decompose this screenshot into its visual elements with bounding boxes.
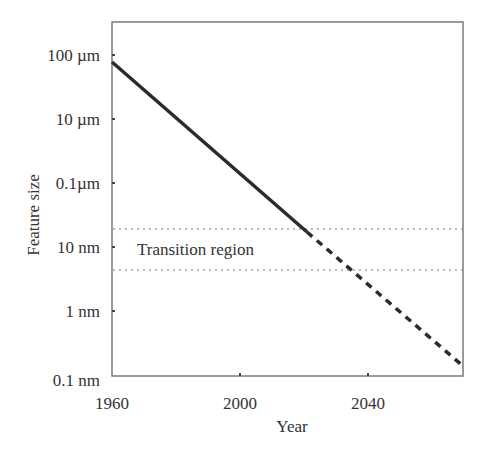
x-tick-label: 2040 [351, 394, 385, 413]
transition-region-label: Transition region [137, 240, 254, 259]
y-tick-label: 1 nm [66, 302, 100, 321]
plot-frame [112, 22, 463, 376]
y-tick-label: 100 µm [47, 46, 100, 65]
x-tick-labels: 1960 2000 2040 [95, 394, 385, 413]
historical-trend-line [112, 62, 307, 232]
projected-trend-line [307, 232, 463, 366]
y-axis-title: Feature size [24, 174, 43, 256]
y-tick-label: 0.1µm [56, 174, 100, 193]
y-tick-label: 0.1 nm [53, 371, 100, 390]
x-axis-title: Year [276, 417, 308, 436]
y-tick-label: 10 µm [56, 110, 100, 129]
x-tick-label: 1960 [95, 394, 129, 413]
x-tick-label: 2000 [223, 394, 257, 413]
y-tick-label: 10 nm [57, 238, 100, 257]
feature-size-chart: 100 µm 10 µm 0.1µm 10 nm 1 nm 0.1 nm 196… [0, 0, 490, 453]
y-tick-labels: 100 µm 10 µm 0.1µm 10 nm 1 nm 0.1 nm [47, 46, 100, 390]
